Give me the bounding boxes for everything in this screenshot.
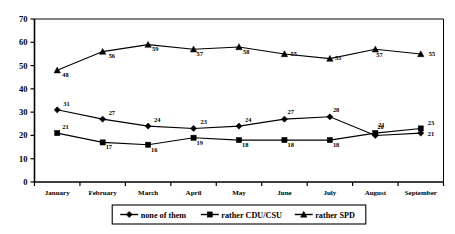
data-point-label: 18 <box>287 141 293 148</box>
data-point-label: 57 <box>197 50 204 57</box>
data-point-label: 23 <box>428 119 434 126</box>
series-1-marker <box>236 137 241 142</box>
series-0-marker <box>190 125 196 131</box>
series-1-marker <box>327 137 332 142</box>
x-category-label: February <box>88 189 117 197</box>
data-point-label: 48 <box>62 71 68 78</box>
series-0-marker <box>145 123 151 129</box>
x-category-label: June <box>277 189 291 197</box>
data-point-label: 58 <box>243 48 249 55</box>
series-1-marker <box>418 126 423 131</box>
data-point-label: 23 <box>201 118 207 125</box>
x-category-label: August <box>365 189 387 197</box>
data-point-label: 53 <box>335 54 341 61</box>
data-point-label: 57 <box>376 51 383 58</box>
data-point-label: 28 <box>333 106 339 113</box>
square-marker-icon <box>207 212 212 217</box>
y-tick-label: 50 <box>19 61 28 71</box>
data-point-label: 27 <box>109 109 116 116</box>
series-0-marker <box>327 114 333 120</box>
y-tick-label: 70 <box>19 14 28 24</box>
series-0-marker <box>236 123 242 129</box>
x-category-label: April <box>186 189 202 197</box>
series-2-marker <box>54 67 60 73</box>
series-1-marker <box>146 142 151 147</box>
data-point-label: 16 <box>151 146 158 153</box>
data-point-label: 18 <box>242 141 248 148</box>
data-point-label: 17 <box>106 143 113 150</box>
y-tick-label: 0 <box>23 177 27 187</box>
legend-item-label: rather CDU/CSU <box>221 211 282 220</box>
series-1-marker <box>373 131 378 136</box>
y-tick-label: 60 <box>19 37 28 47</box>
data-point-label: 21 <box>62 123 68 130</box>
data-point-label: 24 <box>154 116 161 123</box>
x-axis-category-labels: JanuaryFebruaryMarchAprilMayJuneJulyAugu… <box>45 189 437 197</box>
chart-legend[interactable]: none of themrather CDU/CSUrather SPD <box>112 205 366 224</box>
x-category-label: September <box>405 189 437 197</box>
data-point-label: 55 <box>290 50 296 57</box>
data-point-label: 27 <box>287 108 294 115</box>
y-tick-label: 20 <box>19 130 28 140</box>
series-1-marker <box>191 135 196 140</box>
x-category-label: May <box>232 189 246 197</box>
data-point-label: 21 <box>378 121 384 128</box>
series-0-marker <box>100 116 106 122</box>
legend-item-label: none of them <box>141 211 187 220</box>
x-category-label: January <box>45 189 70 197</box>
series-0-marker <box>54 107 60 113</box>
data-point-label: 59 <box>152 45 158 52</box>
series-1-marker <box>55 131 60 136</box>
series-0-marker <box>281 116 287 122</box>
series-1-marker <box>282 137 287 142</box>
series-1-marker <box>100 140 105 145</box>
data-point-label: 18 <box>333 141 339 148</box>
data-point-label: 24 <box>245 116 252 123</box>
legend-item-label: rather SPD <box>315 211 355 220</box>
data-point-label: 55 <box>429 50 435 57</box>
data-point-label: 56 <box>109 52 116 59</box>
y-tick-label: 10 <box>19 154 28 164</box>
data-point-labels-group: 3127242324272820212117161918181821234856… <box>62 45 435 153</box>
data-point-label: 21 <box>428 130 434 137</box>
line-chart: 706050403020100 JanuaryFebruaryMarchApri… <box>0 0 455 234</box>
data-point-label: 31 <box>63 100 69 107</box>
series-lines-group <box>57 45 421 145</box>
x-category-label: March <box>138 189 158 197</box>
y-tick-label: 30 <box>19 107 28 117</box>
data-point-label: 19 <box>197 139 203 146</box>
y-axis-tick-labels: 706050403020100 <box>19 14 28 187</box>
chart-container: 706050403020100 JanuaryFebruaryMarchApri… <box>0 0 455 234</box>
x-category-label: July <box>323 189 336 197</box>
y-tick-label: 40 <box>19 84 28 94</box>
